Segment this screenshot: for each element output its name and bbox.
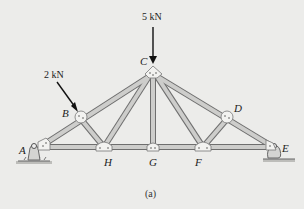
joint-label-f: F (195, 157, 202, 168)
joint-label-e: E (282, 143, 289, 154)
joint-label-a: A (19, 145, 26, 156)
joint-label-h: H (104, 157, 112, 168)
joint-label-g: G (149, 157, 157, 168)
joint-label-b: B (62, 108, 69, 119)
truss-diagram (0, 0, 304, 209)
load-label-2kn: 2 kN (44, 70, 64, 80)
load-arrow-5kn (149, 27, 157, 64)
joint-label-c: C (140, 56, 147, 67)
figure-caption: (a) (145, 189, 156, 199)
load-label-5kn: 5 kN (142, 12, 162, 22)
joint-label-d: D (234, 103, 242, 114)
